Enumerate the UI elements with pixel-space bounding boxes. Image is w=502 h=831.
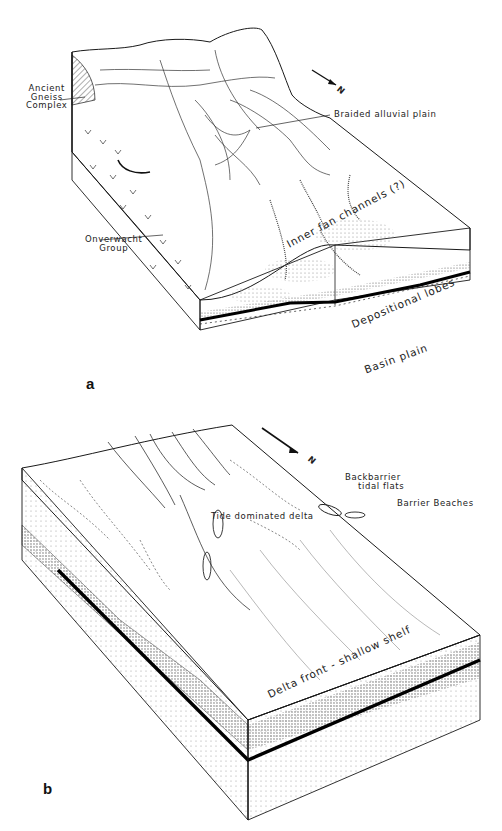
block-diagram-b-drawing xyxy=(0,420,502,831)
label-ancient-gneiss-complex: Ancient Gneiss Complex xyxy=(26,84,67,110)
panel-letter-a: a xyxy=(86,375,94,392)
block-diagram-a-drawing xyxy=(0,0,502,420)
label-onverwacht-group: Onverwacht Group xyxy=(85,235,142,252)
label-line: tidal flats xyxy=(345,482,404,491)
block-diagram-a: Ancient Gneiss Complex Onverwacht Group … xyxy=(0,0,502,420)
block-diagram-b: Backbarrier tidal flats Barrier Beaches … xyxy=(0,420,502,831)
label-backbarrier-tidal-flats: Backbarrier tidal flats xyxy=(345,473,404,490)
label-barrier-beaches: Barrier Beaches xyxy=(397,499,474,508)
label-braided-alluvial-plain: Braided alluvial plain xyxy=(334,110,437,119)
panel-letter-b: b xyxy=(43,780,52,797)
label-line: Complex xyxy=(26,101,67,110)
label-tide-dominated-delta: Tide dominated delta xyxy=(211,512,314,521)
label-line: Group xyxy=(85,244,142,253)
